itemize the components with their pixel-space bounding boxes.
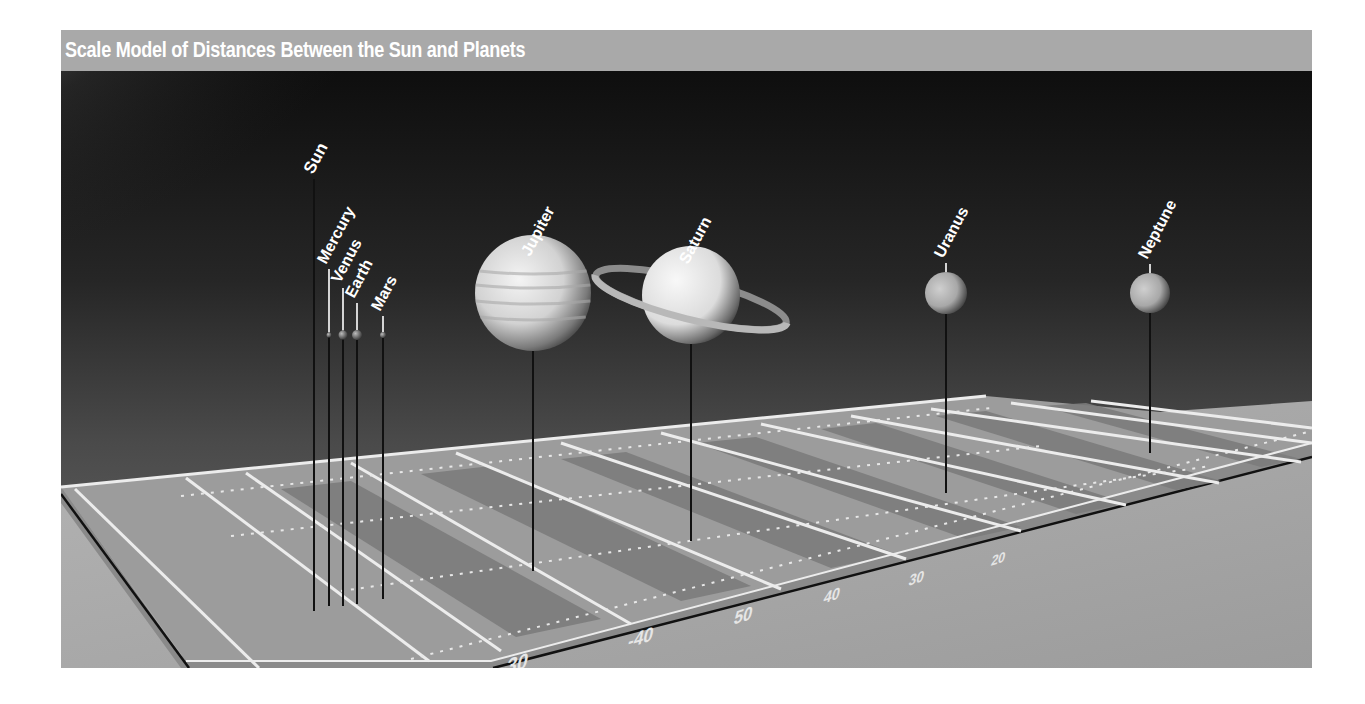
scale-model-figure: Scale Model of Distances Between the Sun… bbox=[61, 30, 1312, 668]
neptune-sphere bbox=[1130, 273, 1170, 313]
solar-system-scene: -10-20-30-4050403020 SunMercuryVenusEart… bbox=[61, 71, 1312, 668]
venus-sphere bbox=[339, 331, 348, 340]
title-bar: Scale Model of Distances Between the Sun… bbox=[61, 30, 1312, 71]
uranus-sphere bbox=[925, 272, 967, 314]
earth-sphere bbox=[352, 330, 362, 340]
figure-title: Scale Model of Distances Between the Sun… bbox=[65, 37, 525, 63]
mars-sphere bbox=[380, 332, 386, 338]
mercury-sphere bbox=[327, 333, 332, 338]
